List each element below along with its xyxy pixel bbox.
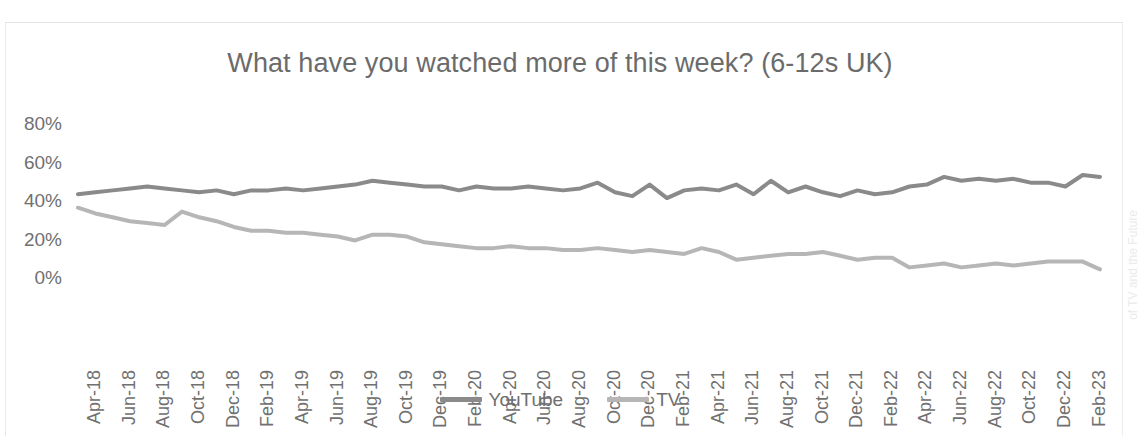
series-line-youtube <box>78 175 1100 198</box>
plot-area <box>78 123 1100 277</box>
legend-label: YouTube <box>489 390 564 409</box>
series-line-tv <box>78 208 1100 270</box>
chart-title: What have you watched more of this week?… <box>0 48 1120 79</box>
series-lines <box>78 123 1100 277</box>
legend-swatch-icon <box>440 397 482 402</box>
legend-item-youtube[interactable]: YouTube <box>440 390 564 409</box>
y-tick-label: 80% <box>24 114 62 133</box>
y-tick-label: 60% <box>24 153 62 172</box>
legend-item-tv[interactable]: TV <box>607 390 680 409</box>
y-tick-label: 40% <box>24 191 62 210</box>
x-axis: Apr-18Jun-18Aug-18Oct-18Dec-18Feb-19Apr-… <box>78 286 1100 372</box>
legend-label: TV <box>656 390 680 409</box>
y-axis: 80%60%40%20%0% <box>0 108 70 293</box>
line-chart: What have you watched more of this week?… <box>0 0 1146 439</box>
legend-swatch-icon <box>607 397 649 402</box>
page-margin-cutoff-text: of TV and the Future <box>1126 210 1140 320</box>
chart-legend: YouTubeTV <box>0 390 1120 409</box>
y-tick-label: 20% <box>24 230 62 249</box>
y-tick-label: 0% <box>35 268 62 287</box>
